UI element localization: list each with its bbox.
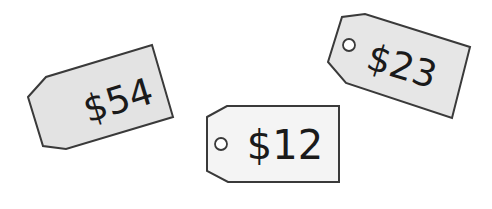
price-tag-54: $54 — [28, 45, 173, 149]
tag-hole-icon — [343, 39, 355, 51]
price-tag-23: $23 — [328, 14, 470, 118]
tag-hole-icon — [215, 138, 227, 150]
price-tag-12: $12 — [207, 106, 339, 182]
price-tags-illustration: $54 $12 $23 — [0, 0, 492, 209]
price-label: $12 — [247, 122, 323, 168]
